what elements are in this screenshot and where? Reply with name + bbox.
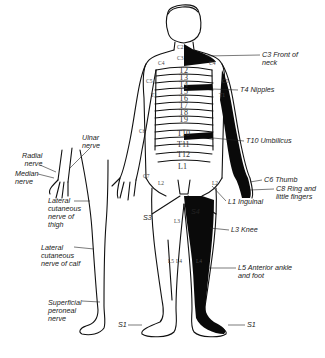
- segment-label: C5: [146, 78, 152, 84]
- level-label-l1: L1: [178, 162, 187, 171]
- segment-label: L4: [196, 258, 202, 264]
- segment-label: C3: [177, 55, 183, 61]
- callout-c8-ring-little-fingers: C8 Ring and little fingers: [276, 185, 316, 201]
- callout-t4-nipples: T4 Nipples: [240, 86, 274, 94]
- callout-s1-left: S1: [118, 321, 127, 329]
- callout-s3: S3: [143, 214, 152, 222]
- callout-l5-anterior-ankle-foot: L5 Anterior ankle and foot: [238, 264, 292, 280]
- segment-label: L3: [174, 218, 180, 224]
- callout-lateral-cutaneous-nerve-thigh: Lateral cutaneous nerve of thigh: [48, 197, 81, 229]
- level-label-t10: T10: [177, 129, 190, 138]
- segment-label: L2: [212, 180, 218, 186]
- segment-label: T1: [219, 92, 225, 98]
- dermatome-diagram: T2 T3 T4 T5 T6 T7 T8 T9 T10 T11 T12 L1 C…: [0, 0, 325, 358]
- segment-label: L2: [158, 180, 164, 186]
- segment-label: C7: [143, 173, 149, 179]
- segment-label: L4: [176, 258, 182, 264]
- segment-label: C5: [222, 78, 228, 84]
- segment-label: C4: [158, 60, 164, 66]
- segment-label: T1: [151, 92, 157, 98]
- callout-median-nerve: Median nerve: [15, 170, 39, 186]
- callout-t10-umbilicus: T10 Umbilicus: [246, 137, 292, 145]
- callout-s1-right: S1: [247, 321, 256, 329]
- segment-label: L5: [168, 258, 174, 264]
- segment-label: C2: [177, 44, 183, 50]
- callout-radial-nerve: Radial nerve: [22, 152, 42, 168]
- callout-c3-front-of-neck: C3 Front of neck: [262, 51, 298, 67]
- callout-l1-inguinal: L1 Inguinal: [228, 198, 263, 206]
- level-label-t9: T9: [179, 115, 188, 124]
- level-label-t11: T11: [177, 140, 190, 149]
- callout-lateral-cutaneous-nerve-calf: Lateral cutaneous nerve of calf: [41, 244, 80, 268]
- callout-superficial-peroneal-nerve: Superficial peroneal nerve: [48, 299, 82, 323]
- callout-s4: S4: [191, 208, 200, 216]
- callout-c6-thumb: C6 Thumb: [264, 176, 298, 184]
- callout-l3-knee: L3 Knee: [231, 226, 258, 234]
- level-label-t12: T12: [177, 150, 190, 159]
- segment-label: C6: [139, 128, 145, 134]
- callout-ulnar-nerve: Ulnar nerve: [82, 134, 100, 150]
- segment-label: C4: [209, 60, 215, 66]
